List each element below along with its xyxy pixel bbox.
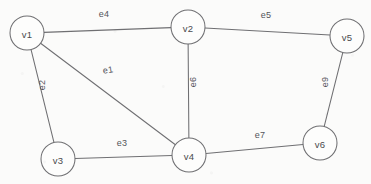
graph-edge-e4 (44, 28, 171, 33)
graph-node-v2 (171, 10, 205, 44)
graph-node-v4 (172, 138, 206, 172)
graph-node-v6 (303, 126, 337, 160)
graph-edge-e3 (75, 156, 172, 159)
graph-node-v5 (330, 19, 364, 53)
graph-edge-e6 (188, 44, 189, 138)
graph-svg (0, 0, 371, 184)
graph-edge-e1 (41, 43, 176, 145)
graph-node-v3 (41, 142, 75, 176)
graph-edge-e5 (205, 28, 330, 35)
graph-diagram-canvas: e1e2e3e4e5e6e7e9v1v2v3v4v5v6 (0, 0, 371, 184)
graph-edge-e7 (206, 145, 303, 154)
graph-edge-e2 (31, 50, 54, 143)
node-layer (10, 10, 364, 176)
graph-edge-e9 (324, 52, 343, 126)
graph-node-v1 (10, 16, 44, 50)
